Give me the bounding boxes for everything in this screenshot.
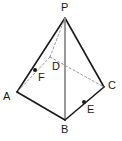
point-label-E: E [87,104,94,115]
vertex-label-D: D [52,61,60,72]
point-marker-F [33,68,37,72]
vertex-label-B: B [61,124,68,135]
vertex-label-A: A [3,91,10,102]
vertex-label-C: C [108,80,116,91]
edge-DA [17,57,50,92]
point-label-F: F [38,72,45,83]
pyramid-svg [0,0,122,141]
pyramid-figure: PABCDFE [0,0,122,141]
vertex-label-P: P [61,2,68,13]
edge-AB [17,92,65,120]
point-marker-E [82,100,86,104]
